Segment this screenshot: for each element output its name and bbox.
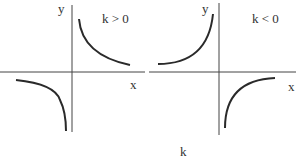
caption-k: k <box>180 145 187 158</box>
left-y-axis-label: y <box>58 2 65 15</box>
left-condition-label: k > 0 <box>102 12 129 25</box>
right-curve-quadrant-2 <box>158 14 213 64</box>
right-curve-quadrant-4 <box>225 78 275 128</box>
right-condition-label: k < 0 <box>252 12 279 25</box>
right-y-axis-label: y <box>202 2 209 15</box>
left-x-axis-label: x <box>130 78 137 91</box>
right-x-axis-label: x <box>288 80 295 93</box>
left-curve-quadrant-3 <box>16 80 66 131</box>
